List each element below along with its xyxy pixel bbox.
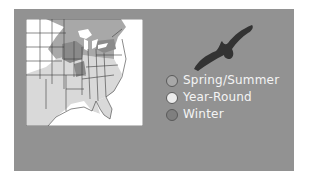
bird-silhouette-icon [190,21,256,73]
range-map [26,19,143,126]
spring-summer-swatch-icon [166,75,178,87]
legend-label: Year-Round [183,89,252,106]
winter-swatch-icon [166,109,178,121]
legend-item-spring-summer: Spring/Summer [166,72,279,89]
legend-item-winter: Winter [166,106,279,123]
year-round-swatch-icon [166,92,178,104]
legend: Spring/Summer Year-Round Winter [166,72,279,123]
legend-label: Winter [183,106,224,123]
range-map-panel: Spring/Summer Year-Round Winter [14,9,294,171]
us-map-graphic [26,19,143,126]
legend-item-year-round: Year-Round [166,89,279,106]
legend-label: Spring/Summer [183,72,279,89]
